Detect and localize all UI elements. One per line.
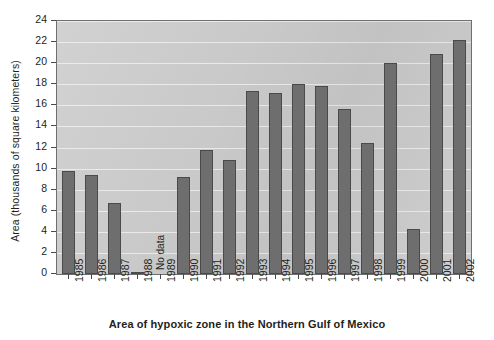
bar-2001 [430, 54, 443, 274]
bar-1998 [361, 143, 374, 274]
x-tick-mark-1988 [137, 274, 138, 279]
y-tick-label-4: 4 [13, 225, 47, 235]
x-tick-mark-2000 [413, 274, 414, 279]
x-tick-mark-1992 [229, 274, 230, 279]
y-tick-label-14: 14 [13, 119, 47, 129]
x-tick-mark-1996 [321, 274, 322, 279]
y-tick-label-12: 12 [13, 141, 47, 151]
gridline-10 [57, 169, 471, 170]
x-tick-mark-1990 [183, 274, 184, 279]
x-tick-mark-1993 [252, 274, 253, 279]
x-tick-mark-1985 [68, 274, 69, 279]
x-tick-mark-1998 [367, 274, 368, 279]
bar-1986 [85, 175, 98, 274]
x-tick-mark-1999 [390, 274, 391, 279]
bar-1994 [269, 93, 282, 274]
y-tick-label-24: 24 [13, 14, 47, 24]
gridline-14 [57, 126, 471, 127]
gridline-8 [57, 190, 471, 191]
bar-1996 [315, 86, 328, 274]
bar-1990 [177, 177, 190, 274]
x-tick-mark-1994 [275, 274, 276, 279]
hypoxic-zone-bar-chart: Area (thousands of square kilometers) 02… [0, 0, 494, 340]
x-tick-mark-1989 [160, 274, 161, 279]
x-tick-label-1988: 1988 [142, 259, 154, 282]
y-tick-label-10: 10 [13, 162, 47, 172]
y-tick-label-0: 0 [13, 267, 47, 277]
gridline-18 [57, 84, 471, 85]
bar-1992 [223, 160, 236, 274]
bar-1985 [62, 171, 75, 274]
bar-1995 [292, 84, 305, 274]
x-tick-mark-2001 [436, 274, 437, 279]
y-tick-label-20: 20 [13, 56, 47, 66]
x-tick-mark-1995 [298, 274, 299, 279]
bar-1997 [338, 109, 351, 275]
gridline-22 [57, 42, 471, 43]
x-tick-mark-1997 [344, 274, 345, 279]
gridline-24 [57, 21, 471, 22]
gridline-20 [57, 63, 471, 64]
y-tick-label-18: 18 [13, 77, 47, 87]
bar-1999 [384, 63, 397, 274]
y-tick-label-6: 6 [13, 204, 47, 214]
x-tick-mark-1991 [206, 274, 207, 279]
y-tick-label-2: 2 [13, 246, 47, 256]
x-tick-mark-1987 [114, 274, 115, 279]
x-tick-mark-1986 [91, 274, 92, 279]
annotation-no-data: No data [155, 235, 166, 270]
y-tick-label-22: 22 [13, 35, 47, 45]
plot-area: No data [56, 20, 472, 275]
bar-2000 [407, 229, 420, 274]
y-tick-label-16: 16 [13, 98, 47, 108]
bar-1993 [246, 91, 259, 274]
bar-1987 [108, 203, 121, 274]
bar-2002 [453, 40, 466, 274]
bar-1991 [200, 150, 213, 274]
bar-1988 [131, 272, 144, 274]
gridline-12 [57, 148, 471, 149]
chart-caption: Area of hypoxic zone in the Northern Gul… [0, 318, 494, 330]
x-tick-label-1989: 1989 [165, 259, 177, 282]
gridline-16 [57, 105, 471, 106]
x-tick-mark-2002 [459, 274, 460, 279]
y-tick-label-8: 8 [13, 183, 47, 193]
